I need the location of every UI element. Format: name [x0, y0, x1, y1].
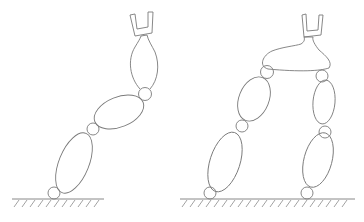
platform-gripper-icon	[302, 14, 323, 37]
left-leg-upper-link	[231, 72, 276, 126]
parallel-robot	[180, 14, 355, 207]
moving-platform	[262, 37, 330, 71]
left-leg-middle-joint-icon	[236, 120, 248, 132]
middle-link	[89, 88, 148, 135]
serial-robot	[12, 12, 158, 207]
right-leg-upper-link	[311, 79, 337, 125]
left-leg-lower-link	[201, 128, 249, 196]
right-leg-top-joint-icon	[316, 70, 328, 82]
upper-link	[130, 35, 157, 89]
right-leg-base-joint-icon	[301, 187, 313, 199]
left-leg-top-joint-icon	[261, 66, 274, 79]
right-leg-lower-link	[297, 129, 339, 190]
right-leg-middle-joint-icon	[319, 126, 331, 138]
ground-right	[180, 199, 355, 207]
gripper-icon	[130, 12, 153, 36]
robot-diagram: Line drawing comparing a serial robot ar…	[0, 0, 364, 222]
diagram-canvas	[0, 0, 364, 222]
left-leg-base-joint-icon	[204, 187, 216, 199]
wrist-joint-icon	[139, 88, 152, 101]
ground-left	[12, 199, 104, 207]
